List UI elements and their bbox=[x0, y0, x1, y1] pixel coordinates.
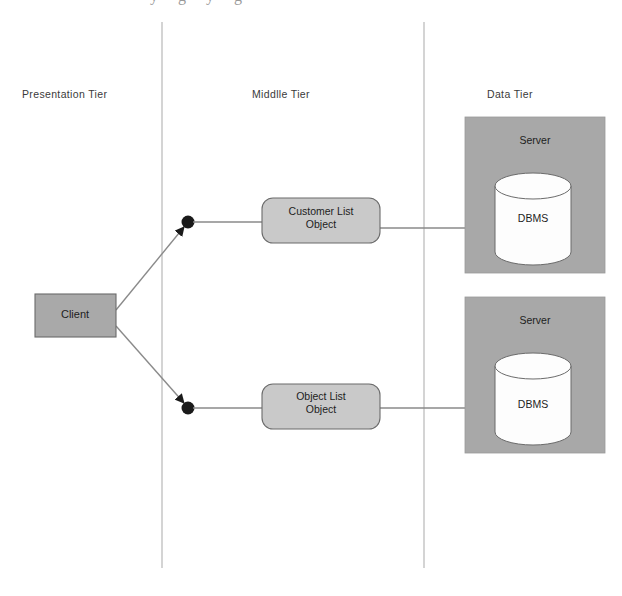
object-list-object-box[interactable] bbox=[262, 384, 380, 429]
server-top-group[interactable] bbox=[465, 117, 605, 273]
connector-client-to-upper-junction bbox=[116, 227, 184, 310]
server-bottom-group[interactable] bbox=[465, 297, 605, 453]
dbms-top-cylinder[interactable] bbox=[495, 173, 571, 265]
junction-dot-lower bbox=[182, 402, 195, 415]
tier-label-middle: Middlle Tier bbox=[252, 88, 310, 100]
tier-dividers bbox=[162, 22, 424, 568]
connector-client-to-lower-junction bbox=[116, 326, 184, 403]
tier-label-data: Data Tier bbox=[487, 88, 533, 100]
dbms-bottom-cylinder[interactable] bbox=[495, 353, 571, 445]
tier-label-presentation: Presentation Tier bbox=[22, 88, 107, 100]
junction-dot-upper bbox=[182, 216, 195, 229]
client-box[interactable] bbox=[35, 294, 116, 337]
three-tier-architecture-diagram: y g y g bbox=[0, 0, 622, 596]
customer-list-object-box[interactable] bbox=[262, 198, 380, 243]
